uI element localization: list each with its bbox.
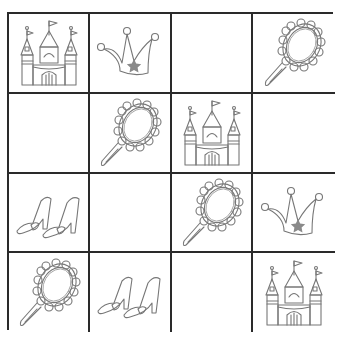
grid-cell-mirror <box>90 94 172 174</box>
grid-cell-mirror <box>253 14 335 94</box>
castle-icon <box>13 17 85 89</box>
castle-icon <box>258 257 330 329</box>
hand-mirror-icon <box>94 97 166 169</box>
grid-cell-empty[interactable] <box>253 94 335 174</box>
crown-icon <box>94 17 166 89</box>
grid-cell-castle <box>253 253 335 332</box>
grid-cell-empty[interactable] <box>172 253 253 332</box>
castle-icon <box>176 97 248 169</box>
grid-cell-mirror <box>9 253 90 332</box>
grid-cell-crown <box>90 14 172 94</box>
grid-cell-empty[interactable] <box>90 174 172 253</box>
grid-cell-mirror <box>172 174 253 253</box>
grid-cell-castle <box>9 14 90 94</box>
hand-mirror-icon <box>13 257 85 329</box>
hand-mirror-icon <box>258 17 330 89</box>
grid-cell-shoes <box>90 253 172 332</box>
grid-cell-shoes <box>9 174 90 253</box>
grid-cell-empty[interactable] <box>172 14 253 94</box>
puzzle-grid <box>7 12 333 330</box>
grid-cell-castle <box>172 94 253 174</box>
grid-cell-crown <box>253 174 335 253</box>
hand-mirror-icon <box>176 177 248 249</box>
glass-slippers-icon <box>94 257 166 329</box>
grid-cell-empty[interactable] <box>9 94 90 174</box>
crown-icon <box>258 177 330 249</box>
glass-slippers-icon <box>13 177 85 249</box>
